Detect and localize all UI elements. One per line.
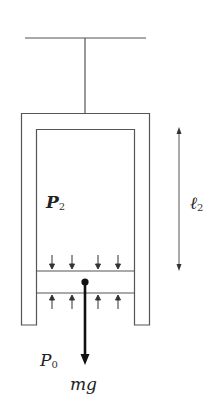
- inner-pressure-label: P2: [45, 192, 65, 212]
- weight-label: mg: [70, 374, 97, 394]
- diagram-canvas: P2 ℓ2 P0 mg: [0, 0, 219, 403]
- length-label: ℓ2: [190, 193, 203, 213]
- length-arrow-up-icon: [177, 127, 182, 134]
- downward-pressure-arrows: [50, 255, 121, 269]
- weight-arrow-head-icon: [81, 354, 90, 365]
- length-arrow-down-icon: [177, 264, 182, 271]
- outer-pressure-label: P0: [39, 350, 58, 370]
